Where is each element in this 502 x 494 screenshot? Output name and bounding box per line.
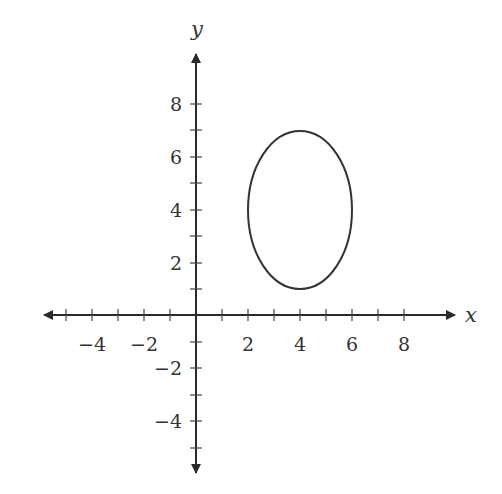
y-tick-label: 4 [170,199,182,221]
y-tick-label: 6 [170,146,182,168]
ellipse-curve [248,131,352,289]
x-tick-label: 2 [242,333,254,355]
y-tick-label: 8 [170,93,182,115]
y-tick-label: −2 [154,357,182,379]
y-tick-label: 2 [170,252,182,274]
y-tick-label: −4 [154,410,182,432]
x-axis-label: x [465,303,477,327]
coordinate-plane: −4 −2 2 4 6 8 8 6 4 2 −2 −4 x y [0,0,502,494]
x-tick-label: 8 [398,333,410,355]
x-tick-label: −4 [78,333,106,355]
y-axis-label: y [190,17,204,41]
x-tick-label: 6 [346,333,358,355]
x-tick-label: 4 [294,333,306,355]
x-tick-label: −2 [130,333,158,355]
